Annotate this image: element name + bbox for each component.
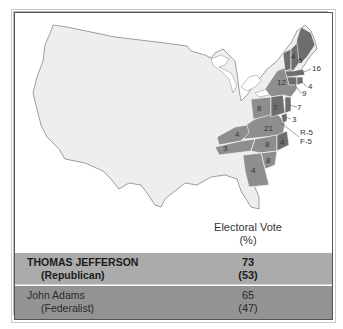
header-percent: (%) xyxy=(213,234,283,247)
candidate-party: (Federalist) xyxy=(27,302,94,315)
label-ma: 16 xyxy=(312,64,321,73)
label-ky: 4 xyxy=(235,130,240,139)
label-tn: 3 xyxy=(223,144,228,153)
label-de: 3 xyxy=(292,115,297,124)
table-row-jefferson: THOMAS JEFFERSON (Republican) 73 (53) xyxy=(15,253,332,285)
label-md-r: R-5 xyxy=(300,128,313,137)
vote-cell: 65 (47) xyxy=(213,289,283,315)
header-title: Electoral Vote xyxy=(213,221,283,234)
vote-cell: 73 (53) xyxy=(213,256,283,282)
label-sc: 8 xyxy=(266,156,271,165)
candidate-name: THOMAS JEFFERSON xyxy=(27,256,138,269)
label-ct: 9 xyxy=(302,89,307,98)
state-new-jersey xyxy=(285,97,291,113)
candidate-name: John Adams xyxy=(27,289,94,302)
label-nh: 6 xyxy=(298,56,303,65)
candidate-cell: THOMAS JEFFERSON (Republican) xyxy=(27,256,138,282)
electoral-vote-header: Electoral Vote (%) xyxy=(213,221,283,247)
label-vt: 4 xyxy=(291,52,296,61)
label-pa: 8 xyxy=(257,104,262,113)
figure-frame: 4 6 16 4 9 12 8 7 7 3 R-5 F-5 21 4 3 8 4… xyxy=(14,12,333,320)
label-ri: 4 xyxy=(308,82,313,91)
label-pa2: 7 xyxy=(273,103,278,112)
label-nc2: 4 xyxy=(280,138,285,147)
vote-percent: (47) xyxy=(213,302,283,315)
candidate-cell: John Adams (Federalist) xyxy=(27,289,94,315)
label-ga: 4 xyxy=(251,166,256,175)
state-rhode-island xyxy=(297,77,303,85)
state-connecticut xyxy=(287,77,297,85)
electoral-votes: 73 xyxy=(213,256,283,269)
vote-percent: (53) xyxy=(213,269,283,282)
label-nc: 8 xyxy=(265,140,270,149)
label-md-f: F-5 xyxy=(300,137,313,146)
electoral-votes: 65 xyxy=(213,289,283,302)
label-nj: 7 xyxy=(297,103,302,112)
table-row-adams: John Adams (Federalist) 65 (47) xyxy=(15,286,332,319)
label-ny: 12 xyxy=(277,78,286,87)
us-map: 4 6 16 4 9 12 8 7 7 3 R-5 F-5 21 4 3 8 4… xyxy=(15,13,332,218)
label-va: 21 xyxy=(264,124,273,133)
candidate-party: (Republican) xyxy=(27,269,138,282)
